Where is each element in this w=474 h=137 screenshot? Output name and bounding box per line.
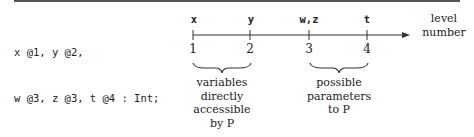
- level-4: 4: [363, 42, 371, 56]
- caption-line: accessible: [193, 103, 250, 117]
- axis-label: level number: [422, 12, 465, 39]
- caption-line: by P: [193, 117, 250, 131]
- axis-label-line: number: [422, 26, 465, 40]
- left-brace-icon: [193, 63, 251, 73]
- axis-label-line: level: [422, 12, 465, 26]
- left-brace-caption: variables directly accessible by P: [193, 76, 250, 130]
- level-2: 2: [246, 42, 254, 56]
- var-label-wz: w,z: [300, 13, 319, 25]
- caption-line: parameters: [307, 90, 371, 104]
- level-3: 3: [305, 42, 313, 56]
- var-label-t: t: [364, 13, 370, 25]
- var-label-y: y: [248, 13, 254, 25]
- arrow-head-icon: [402, 32, 410, 38]
- level-1: 1: [189, 42, 197, 56]
- var-label-x: x: [191, 13, 197, 25]
- right-brace-icon: [310, 63, 368, 73]
- caption-line: possible: [307, 76, 371, 90]
- caption-line: directly: [193, 90, 250, 104]
- caption-line: to P: [307, 103, 371, 117]
- caption-line: variables: [193, 76, 250, 90]
- level-diagram: x y w,z t 1 2 3 4 level number variables…: [0, 0, 474, 137]
- right-brace-caption: possible parameters to P: [307, 76, 371, 117]
